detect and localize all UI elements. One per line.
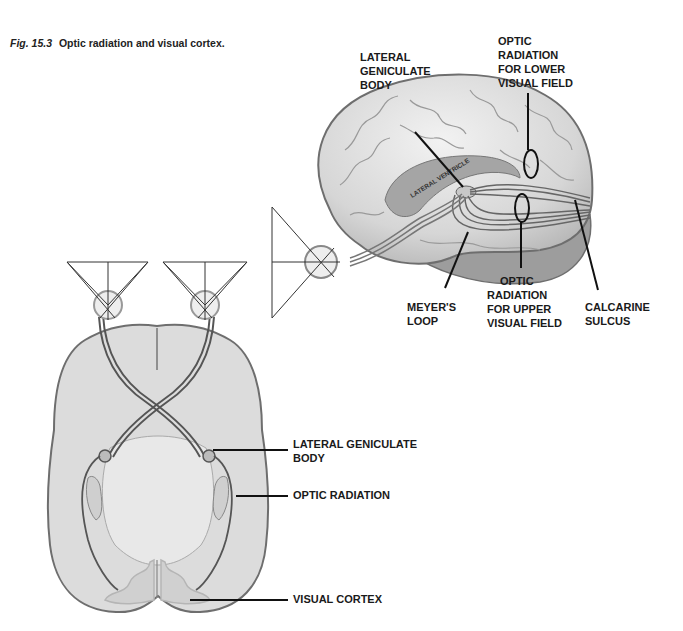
lgb-label-axial: LATERAL GENICULATE BODY: [293, 438, 420, 464]
visual-cortex-label: VISUAL CORTEX: [293, 593, 383, 605]
meyers-loop-label: MEYER'S LOOP: [407, 301, 459, 327]
axial-visual-field-triangles: [67, 262, 247, 320]
right-lgb: [203, 450, 215, 462]
axial-inner-region: [102, 436, 213, 565]
visual-field-triangle: [272, 207, 340, 318]
lower-field-label: OPTIC RADIATION FOR LOWER VISUAL FIELD: [498, 35, 573, 89]
lateral-brain-view: LATERAL VENTRICLE: [272, 35, 653, 329]
axial-brain-view: LATERAL GENICULATE BODY OPTIC RADIATION …: [48, 262, 420, 612]
optic-radiation-label: OPTIC RADIATION: [293, 489, 390, 501]
left-lgb: [99, 450, 111, 462]
calcarine-sulcus-label: CALCARINE SULCUS: [585, 301, 653, 327]
optic-pathway-diagram: LATERAL VENTRICLE: [0, 0, 683, 631]
